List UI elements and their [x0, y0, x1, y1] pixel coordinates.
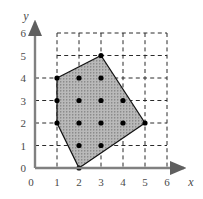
lattice-point: [142, 120, 147, 125]
lattice-point: [54, 75, 59, 80]
y-tick-label-4: 4: [21, 72, 27, 84]
x-tick-label-0: 0: [28, 176, 34, 188]
lattice-point: [54, 98, 59, 103]
x-tick-label-2: 2: [76, 176, 82, 188]
x-axis-label: x: [187, 175, 194, 189]
lattice-point: [76, 75, 81, 80]
y-tick-label-3: 3: [21, 95, 27, 107]
y-axis-label: y: [22, 9, 29, 23]
x-tick-label-1: 1: [54, 176, 60, 188]
x-tick-label-4: 4: [120, 176, 126, 188]
lattice-point: [98, 98, 103, 103]
lattice-point: [98, 53, 103, 58]
lattice-point: [54, 120, 59, 125]
y-tick-label-5: 5: [21, 50, 27, 62]
figure-container: 0 1 2 3 4 5 6 0 1 2 3 4 5 6 x y: [0, 0, 203, 199]
x-tick-label-3: 3: [98, 176, 104, 188]
lattice-point: [76, 98, 81, 103]
lattice-polygon-figure: 0 1 2 3 4 5 6 0 1 2 3 4 5 6 x y: [0, 0, 203, 199]
lattice-point: [120, 120, 125, 125]
lattice-point: [98, 143, 103, 148]
y-tick-label-2: 2: [21, 117, 27, 129]
lattice-point: [120, 98, 125, 103]
lattice-point: [76, 143, 81, 148]
lattice-point: [98, 75, 103, 80]
y-tick-label-6: 6: [21, 27, 27, 39]
lattice-point: [76, 120, 81, 125]
x-tick-label-6: 6: [164, 176, 170, 188]
y-tick-label-1: 1: [21, 140, 27, 152]
x-tick-label-5: 5: [142, 176, 148, 188]
lattice-point: [98, 120, 103, 125]
y-tick-label-0: 0: [21, 162, 27, 174]
